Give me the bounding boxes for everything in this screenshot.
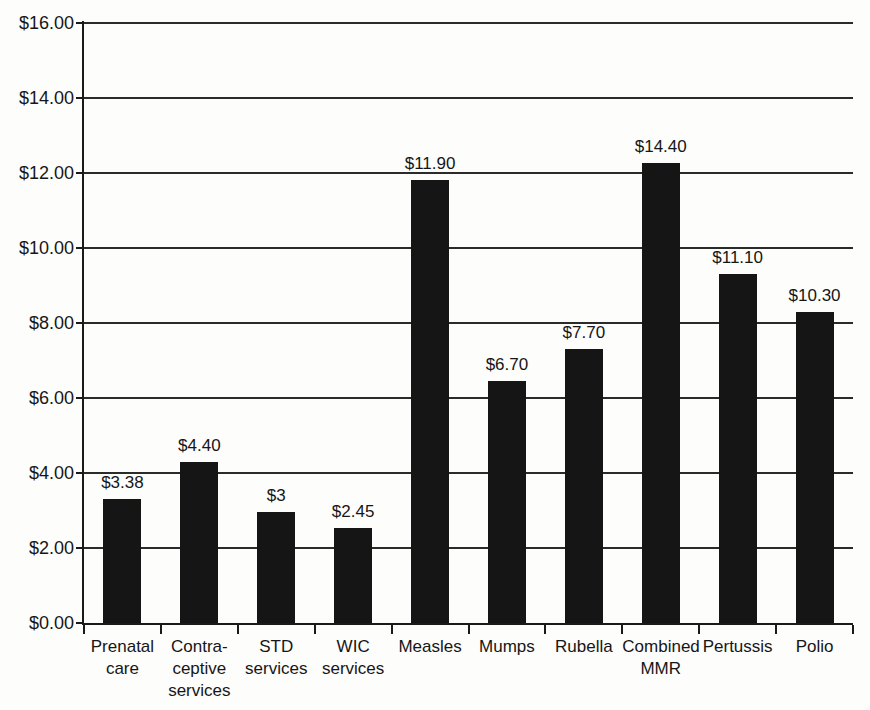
- y-axis-tick-label: $0.00: [0, 613, 74, 633]
- x-category-label-line: Pertussis: [699, 636, 776, 658]
- x-axis-tick: [544, 625, 546, 634]
- x-category-label-line: Combined: [622, 636, 699, 658]
- x-category-label: CombinedMMR: [622, 636, 699, 680]
- y-axis-tick-label: $4.00: [0, 463, 74, 483]
- bar-value-label: $14.40: [616, 137, 706, 157]
- bar-measles: [411, 180, 449, 623]
- y-axis-tick-label: $14.00: [0, 88, 74, 108]
- x-category-label-line: Polio: [776, 636, 853, 658]
- x-axis-tick: [468, 625, 470, 634]
- x-category-label-line: services: [315, 658, 392, 680]
- x-category-label-line: WIC: [315, 636, 392, 658]
- x-axis-tick: [314, 625, 316, 634]
- x-axis-tick: [160, 625, 162, 634]
- x-category-label: Measles: [392, 636, 469, 658]
- bar-rubella: [565, 349, 603, 623]
- x-category-label-line: Rubella: [545, 636, 622, 658]
- bar-value-label: $4.40: [154, 436, 244, 456]
- x-category-label-line: Measles: [392, 636, 469, 658]
- x-category-label-line: STD: [238, 636, 315, 658]
- x-category-label-line: Mumps: [469, 636, 546, 658]
- x-category-label-line: ceptive: [161, 658, 238, 680]
- bar-wic-services: [334, 528, 372, 623]
- x-category-label-line: MMR: [622, 658, 699, 680]
- x-category-label: Contra-ceptiveservices: [161, 636, 238, 702]
- x-category-label: Rubella: [545, 636, 622, 658]
- y-axis-tick-label: $6.00: [0, 388, 74, 408]
- gridline: [84, 97, 853, 98]
- plot-area: $0.00$2.00$4.00$6.00$8.00$10.00$12.00$14…: [0, 0, 870, 710]
- bar-contraceptive-services: [180, 462, 218, 623]
- bar-prenatal-care: [103, 499, 141, 623]
- y-axis-line: [82, 21, 84, 625]
- x-category-label: WICservices: [315, 636, 392, 680]
- cost-savings-bar-chart: $0.00$2.00$4.00$6.00$8.00$10.00$12.00$14…: [0, 0, 870, 710]
- y-axis-tick-label: $2.00: [0, 538, 74, 558]
- x-axis-tick: [852, 625, 854, 634]
- x-category-label: STDservices: [238, 636, 315, 680]
- x-category-label-line: services: [238, 658, 315, 680]
- x-category-label-line: Prenatal: [84, 636, 161, 658]
- bar-polio: [796, 312, 834, 623]
- x-category-label: Prenatalcare: [84, 636, 161, 680]
- bar-value-label: $11.10: [693, 248, 783, 268]
- bar-value-label: $11.90: [385, 154, 475, 174]
- bar-mumps: [488, 381, 526, 623]
- x-axis-tick: [621, 625, 623, 634]
- x-category-label-line: care: [84, 658, 161, 680]
- x-axis-tick: [237, 625, 239, 634]
- bar-value-label: $7.70: [539, 323, 629, 343]
- x-axis-tick: [698, 625, 700, 634]
- y-axis-tick-label: $12.00: [0, 163, 74, 183]
- gridline: [84, 22, 853, 23]
- bar-pertussis: [719, 274, 757, 623]
- bar-std-services: [257, 512, 295, 623]
- x-category-label: Polio: [776, 636, 853, 658]
- x-category-label-line: Contra-: [161, 636, 238, 658]
- y-axis-tick-label: $8.00: [0, 313, 74, 333]
- y-axis-tick-label: $10.00: [0, 238, 74, 258]
- x-axis-tick: [391, 625, 393, 634]
- bar-combined-mmr: [642, 163, 680, 623]
- x-category-label: Pertussis: [699, 636, 776, 658]
- x-category-label-line: services: [161, 680, 238, 702]
- x-axis-tick: [83, 625, 85, 634]
- bar-value-label: $10.30: [770, 286, 860, 306]
- bar-value-label: $3.38: [77, 473, 167, 493]
- bar-value-label: $2.45: [308, 502, 398, 522]
- bar-value-label: $6.70: [462, 355, 552, 375]
- y-axis-tick-label: $16.00: [0, 13, 74, 33]
- x-axis-tick: [775, 625, 777, 634]
- x-category-label: Mumps: [469, 636, 546, 658]
